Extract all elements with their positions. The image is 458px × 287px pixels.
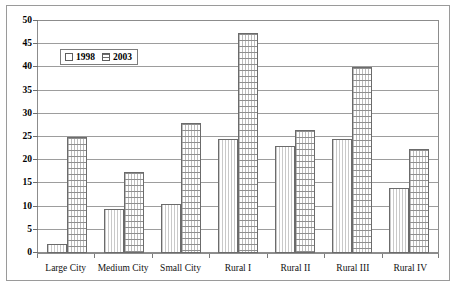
category-label-text: Rural III — [336, 263, 369, 273]
y-tick-label-35: 35 — [23, 85, 33, 95]
category-axis: Large CityMedium CitySmall CityRural IRu… — [37, 254, 439, 278]
chart-legend: 1998 2003 — [60, 49, 138, 65]
category-tick-mark — [382, 254, 383, 258]
bar-group-small-city — [152, 21, 209, 253]
bar-rural-iv-1998 — [389, 188, 409, 253]
legend-label-2003: 2003 — [113, 52, 132, 62]
category-label-text: Small City — [160, 263, 201, 273]
category-label-small-city: Small City — [152, 254, 209, 278]
category-tick-mark — [37, 254, 38, 258]
category-label-text: Rural IV — [393, 263, 427, 273]
category-tick-mark — [94, 254, 95, 258]
category-label-large-city: Large City — [37, 254, 94, 278]
bar-group-rural-i — [209, 21, 266, 253]
bar-rural-iii-1998 — [332, 139, 352, 253]
bar-large-city-1998 — [47, 244, 67, 253]
legend-item-2003: 2003 — [102, 52, 132, 62]
y-tick-label-0: 0 — [27, 247, 32, 257]
y-tick-label-5: 5 — [27, 224, 32, 234]
y-tick-label-30: 30 — [23, 108, 33, 118]
legend-swatch-2003-icon — [102, 53, 110, 61]
bar-large-city-2003 — [67, 137, 87, 253]
category-label-text: Large City — [45, 263, 86, 273]
bar-small-city-2003 — [181, 123, 201, 253]
bar-rural-i-1998 — [218, 139, 238, 253]
bar-rural-iv-2003 — [409, 149, 429, 253]
category-tick-mark — [152, 254, 153, 258]
y-tick-label-45: 45 — [23, 38, 33, 48]
y-tick-label-25: 25 — [23, 131, 33, 141]
bar-rural-i-2003 — [238, 33, 258, 253]
category-tick-mark — [324, 254, 325, 258]
y-tick-label-20: 20 — [23, 154, 33, 164]
bar-rural-ii-2003 — [295, 130, 315, 253]
category-label-rural-iii: Rural III — [324, 254, 381, 278]
category-tick-mark — [209, 254, 210, 258]
legend-item-1998: 1998 — [65, 52, 95, 62]
y-tick-label-50: 50 — [23, 15, 33, 25]
legend-label-1998: 1998 — [76, 52, 95, 62]
bar-medium-city-1998 — [104, 209, 124, 253]
chart-frame: 05101520253035404550 1998 2003 Large Cit… — [6, 5, 450, 281]
category-label-rural-iv: Rural IV — [382, 254, 439, 278]
legend-swatch-1998-icon — [65, 53, 73, 61]
y-tick-label-10: 10 — [23, 201, 33, 211]
y-tick-label-40: 40 — [23, 61, 33, 71]
category-label-text: Medium City — [98, 263, 149, 273]
category-label-medium-city: Medium City — [94, 254, 151, 278]
category-tick-mark-end — [438, 254, 439, 258]
bar-medium-city-2003 — [124, 172, 144, 253]
bar-rural-ii-1998 — [275, 146, 295, 253]
bar-group-rural-iii — [324, 21, 381, 253]
category-label-text: Rural II — [280, 263, 310, 273]
y-tick-label-15: 15 — [23, 177, 33, 187]
bar-group-rural-ii — [267, 21, 324, 253]
category-tick-mark — [267, 254, 268, 258]
bar-group-rural-iv — [381, 21, 438, 253]
category-label-rural-i: Rural I — [209, 254, 266, 278]
category-label-text: Rural I — [225, 263, 252, 273]
bar-rural-iii-2003 — [352, 67, 372, 253]
category-label-rural-ii: Rural II — [267, 254, 324, 278]
bar-small-city-1998 — [161, 204, 181, 253]
